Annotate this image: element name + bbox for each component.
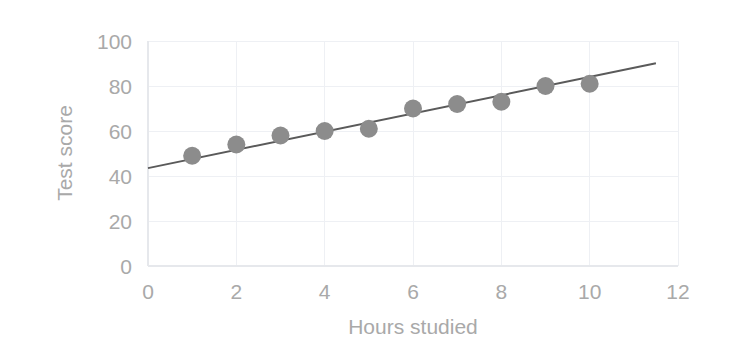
y-tick-label: 0 <box>120 255 132 278</box>
x-tick-label: 10 <box>578 280 601 303</box>
data-point <box>316 122 334 140</box>
trendline <box>148 63 656 168</box>
y-tick-label: 60 <box>109 120 132 143</box>
x-tick-label: 8 <box>495 280 507 303</box>
y-tick-label: 100 <box>97 30 132 53</box>
data-point <box>448 95 466 113</box>
y-tick-label: 80 <box>109 75 132 98</box>
data-point <box>272 127 290 145</box>
x-tick-label: 4 <box>319 280 331 303</box>
x-tick-labels-group: 024681012 <box>142 280 690 303</box>
chart-canvas: 020406080100 024681012 Hours studied Tes… <box>0 0 749 349</box>
x-axis-title: Hours studied <box>348 315 478 338</box>
data-point <box>581 75 599 93</box>
x-tick-label: 6 <box>407 280 419 303</box>
x-tick-label: 0 <box>142 280 154 303</box>
y-tick-label: 20 <box>109 210 132 233</box>
trendline-group <box>148 63 656 168</box>
data-point <box>537 77 555 95</box>
data-point <box>360 120 378 138</box>
x-tick-label: 12 <box>666 280 689 303</box>
scatter-chart: 020406080100 024681012 Hours studied Tes… <box>0 0 749 349</box>
y-tick-label: 40 <box>109 165 132 188</box>
y-tick-labels-group: 020406080100 <box>97 30 132 278</box>
data-point <box>183 147 201 165</box>
x-tick-label: 2 <box>230 280 242 303</box>
data-point <box>404 100 422 118</box>
data-point <box>492 93 510 111</box>
data-point <box>227 136 245 154</box>
y-axis-title: Test score <box>53 105 76 201</box>
